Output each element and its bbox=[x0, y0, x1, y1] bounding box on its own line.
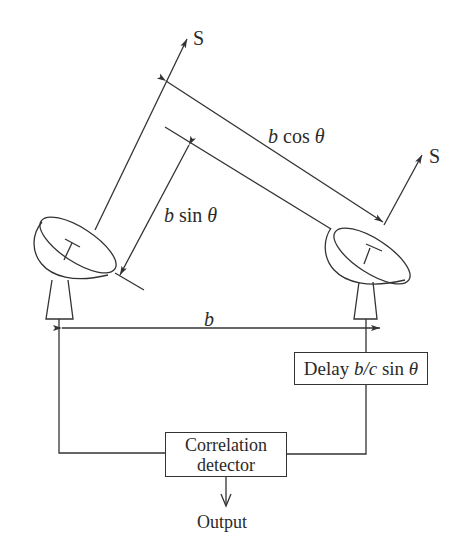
correlation-detector-box: Correlation detector bbox=[165, 432, 287, 477]
left-source-label: S bbox=[193, 28, 204, 48]
left-antenna-icon bbox=[32, 207, 124, 319]
interferometer-diagram: S S b cos θ b sin θ b Delay b/c sin θ Co… bbox=[0, 0, 463, 553]
right-antenna-icon bbox=[325, 218, 418, 319]
delay-to-correlator-path bbox=[287, 385, 366, 454]
left-signal-path bbox=[59, 319, 165, 453]
right-source-label: S bbox=[429, 146, 440, 166]
baseline-label: b bbox=[204, 309, 214, 329]
b-cos-theta-label: b cos θ bbox=[268, 126, 325, 146]
output-label: Output bbox=[197, 513, 247, 531]
right-source-ray bbox=[384, 155, 422, 225]
left-source-ray bbox=[95, 39, 187, 230]
b-sin-theta-label: b sin θ bbox=[164, 205, 217, 225]
b-cos-theta-arrow bbox=[166, 81, 383, 222]
wavefront-tick bbox=[115, 273, 144, 290]
delay-box: Delay b/c sin θ bbox=[294, 352, 428, 385]
